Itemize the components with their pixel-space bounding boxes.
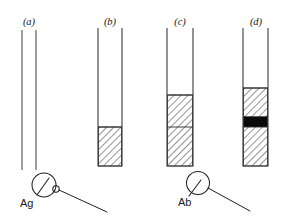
antigen-leader-line bbox=[59, 190, 107, 212]
immunodiffusion-figure: (a) (b) (c) (d) bbox=[0, 0, 290, 219]
antibody-symbol: Ab bbox=[178, 172, 250, 212]
antibody-circle-icon bbox=[187, 172, 210, 195]
panel-b-hatch-fill bbox=[99, 127, 122, 166]
antibody-leader-line bbox=[208, 188, 250, 211]
antibody-label: Ab bbox=[178, 196, 191, 208]
panel-d-precipitin-band bbox=[244, 117, 268, 127]
panel-d-label: (d) bbox=[250, 16, 263, 28]
panel-d: (d) bbox=[243, 16, 268, 166]
panel-c-label: (c) bbox=[174, 16, 186, 28]
panel-d-hatch-fill-upper bbox=[244, 88, 268, 117]
panel-b: (b) bbox=[98, 16, 122, 166]
figure-canvas: (a) (b) (c) (d) bbox=[0, 0, 290, 219]
panel-a-label: (a) bbox=[23, 16, 36, 28]
panel-c: (c) bbox=[167, 16, 193, 166]
panel-b-label: (b) bbox=[104, 16, 117, 28]
panel-d-hatch-fill-lower bbox=[244, 127, 268, 166]
antigen-inner-tick-icon bbox=[37, 178, 49, 195]
panel-a: (a) bbox=[22, 16, 36, 170]
antigen-symbol: Ag bbox=[20, 173, 107, 212]
antigen-label: Ag bbox=[20, 197, 33, 209]
panel-c-hatch-fill bbox=[168, 95, 193, 166]
